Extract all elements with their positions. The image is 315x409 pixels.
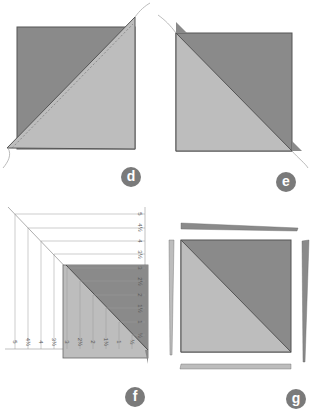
tick-label: 1½ [103, 338, 109, 346]
tick-label: 4½ [25, 338, 31, 346]
tick-label: 3½ [137, 250, 143, 258]
tick-label: 4 [137, 239, 143, 243]
tick-label: 1½ [137, 304, 143, 312]
tick-label: 3½ [51, 338, 57, 346]
tick-label: 2½ [137, 277, 143, 285]
panel-label-d: d [121, 167, 141, 187]
panel-e-block [158, 15, 308, 168]
tick-label: 5 [137, 212, 143, 216]
panel-f-measure-diagram: 54½43½32½21½1½ 54½43½32½21½1½ [5, 207, 148, 364]
tick-label: 4½ [137, 223, 143, 231]
diagram-canvas: 54½43½32½21½1½ 54½43½32½21½1½ [0, 0, 315, 409]
panel-g-block [169, 223, 309, 369]
tick-label: ½ [129, 339, 135, 344]
tick-label: 2½ [77, 338, 83, 346]
panel-label-g: g [286, 389, 306, 409]
tick-label: ½ [137, 333, 143, 338]
panel-label-f: f [125, 387, 145, 407]
panel-label-e: e [276, 172, 296, 192]
panel-d-block [3, 3, 150, 168]
